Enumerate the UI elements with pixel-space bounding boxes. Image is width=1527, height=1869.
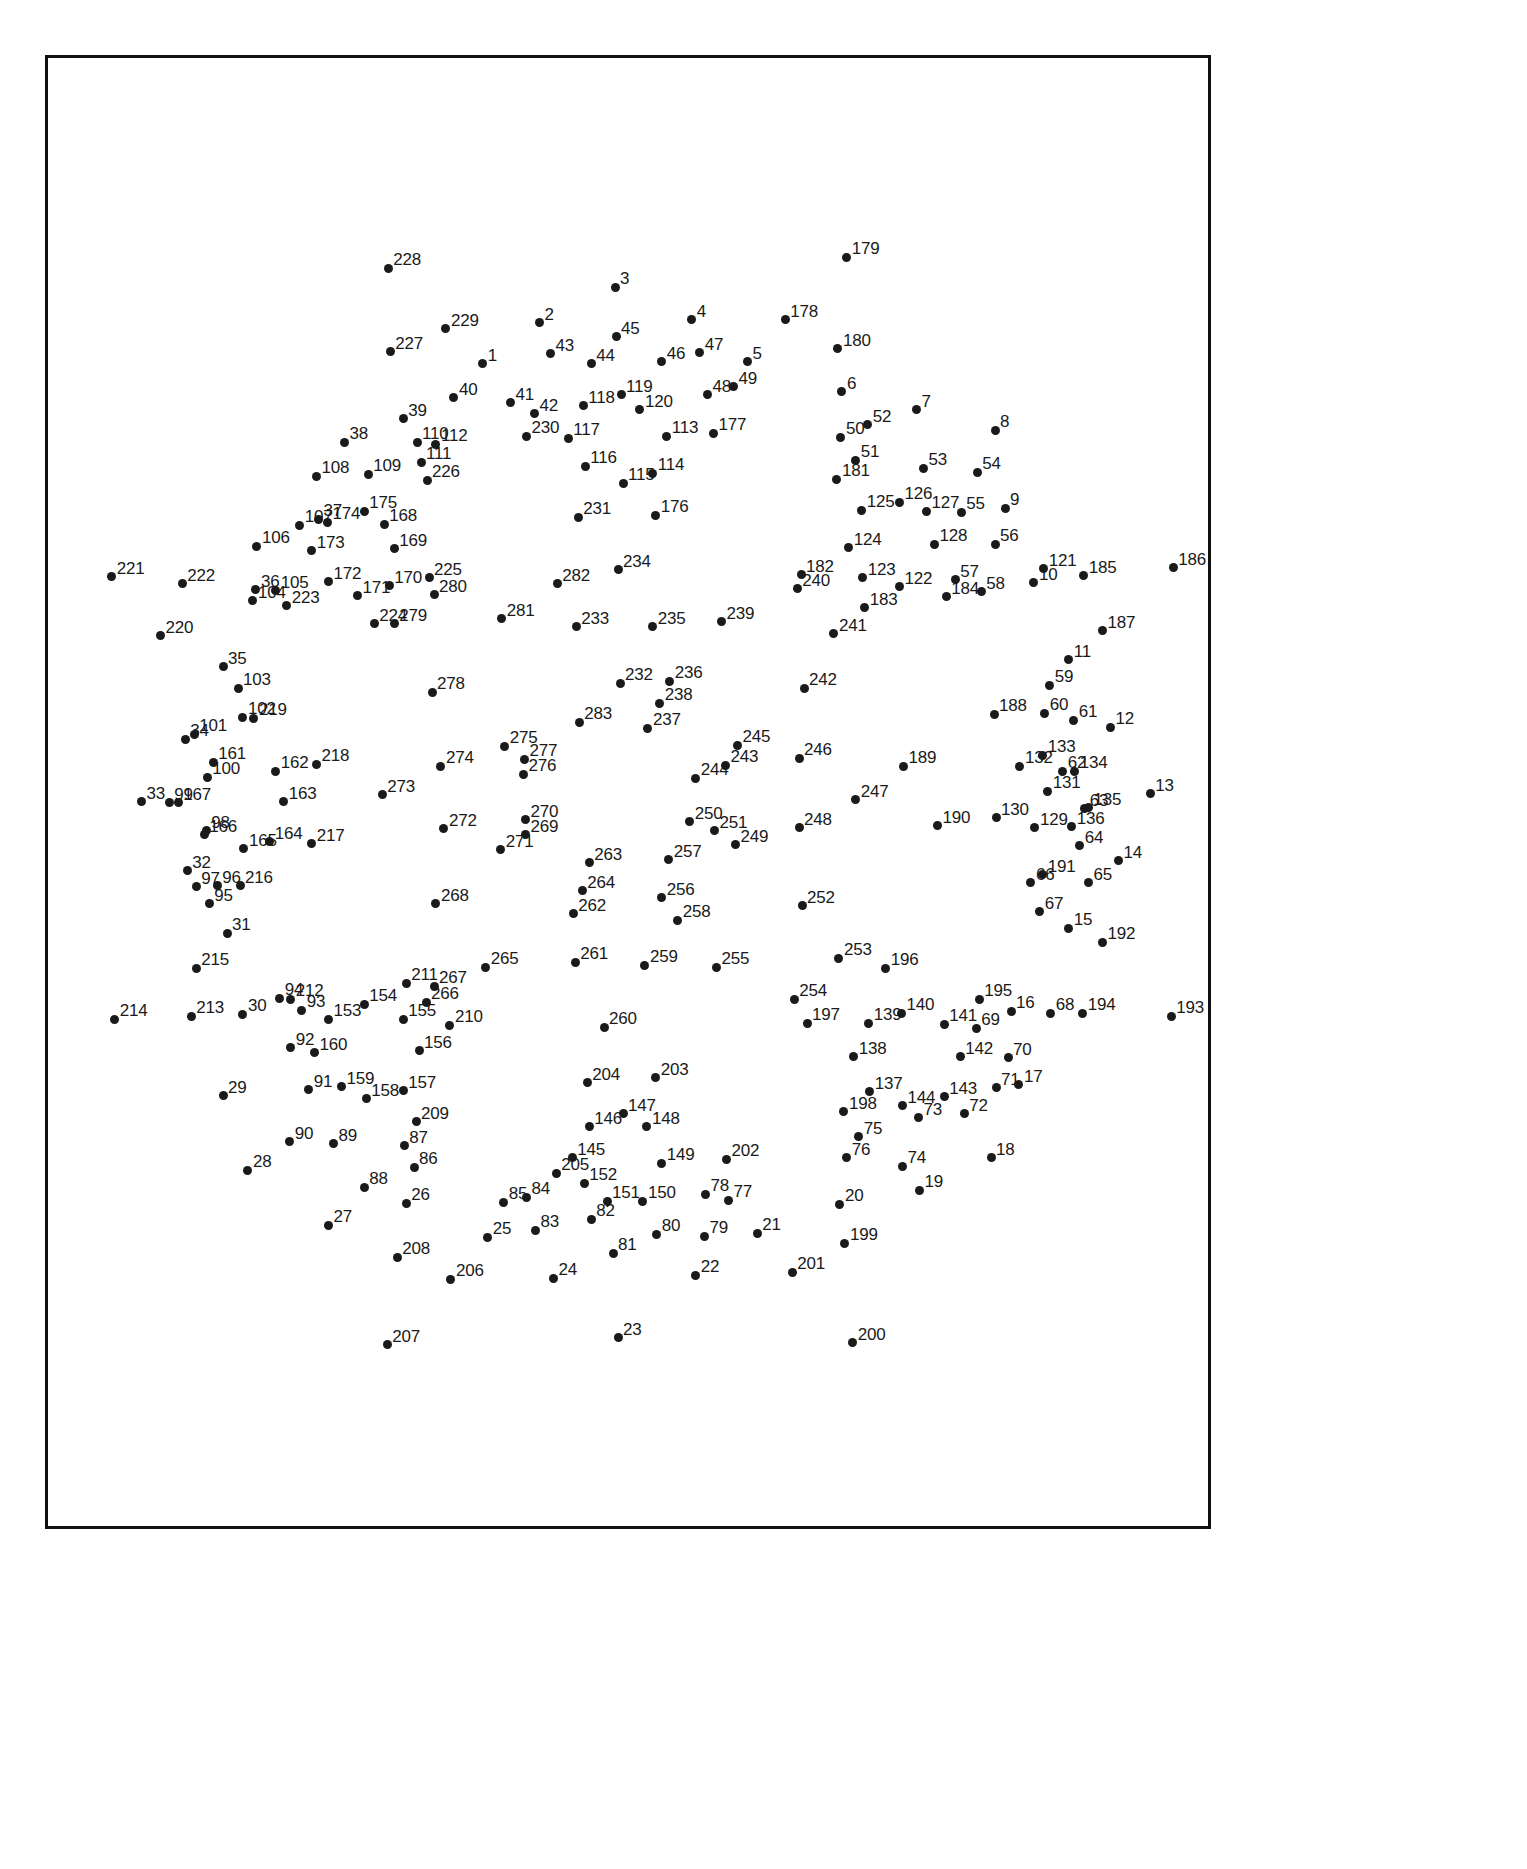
dot-marker: [701, 1190, 710, 1199]
dot-marker: [383, 1340, 392, 1349]
dot-number-label: 272: [449, 812, 477, 829]
dot-marker: [860, 603, 869, 612]
dot-number-label: 270: [531, 803, 559, 820]
dot-marker: [478, 359, 487, 368]
dot-number-label: 214: [120, 1002, 148, 1019]
dot-marker: [603, 1197, 612, 1206]
dot-marker: [564, 434, 573, 443]
dot-marker: [695, 348, 704, 357]
dot-marker: [914, 1113, 923, 1122]
dot-marker: [481, 963, 490, 972]
dot-marker: [790, 995, 799, 1004]
dot-number-label: 87: [409, 1129, 428, 1146]
dot-number-label: 170: [394, 569, 422, 586]
dot-number-label: 199: [850, 1226, 878, 1243]
dot-marker: [975, 995, 984, 1004]
dot-marker: [364, 470, 373, 479]
dot-marker: [402, 1199, 411, 1208]
dot-marker: [662, 432, 671, 441]
dot-number-label: 178: [790, 303, 818, 320]
dot-marker: [378, 790, 387, 799]
dot-number-label: 218: [322, 747, 350, 764]
dot-number-label: 262: [578, 897, 606, 914]
dot-marker: [428, 688, 437, 697]
dot-number-label: 166: [209, 818, 237, 835]
dot-marker: [248, 596, 257, 605]
dot-marker: [483, 1233, 492, 1242]
dot-marker: [881, 964, 890, 973]
dot-number-label: 81: [618, 1236, 637, 1253]
dot-marker: [192, 964, 201, 973]
dot-marker: [992, 813, 1001, 822]
dot-marker: [710, 826, 719, 835]
dot-marker: [614, 1333, 623, 1342]
dot-marker: [238, 1010, 247, 1019]
dot-number-label: 188: [999, 697, 1027, 714]
dot-number-label: 84: [532, 1180, 551, 1197]
dot-number-label: 162: [281, 754, 309, 771]
dot-number-label: 220: [165, 619, 193, 636]
dot-number-label: 137: [875, 1075, 903, 1092]
dot-number-label: 24: [558, 1261, 577, 1278]
dot-marker: [1169, 563, 1178, 572]
dot-marker: [731, 840, 740, 849]
dot-number-label: 57: [960, 563, 979, 580]
dot-marker: [664, 855, 673, 864]
dot-number-label: 205: [561, 1156, 589, 1173]
dot-number-label: 141: [949, 1007, 977, 1024]
dot-number-label: 190: [942, 809, 970, 826]
dot-number-label: 115: [628, 466, 655, 483]
dot-number-label: 282: [562, 567, 590, 584]
dot-marker: [849, 1052, 858, 1061]
dot-number-label: 150: [648, 1184, 676, 1201]
dot-marker: [863, 420, 872, 429]
dot-marker: [553, 579, 562, 588]
dot-marker: [685, 817, 694, 826]
dot-number-label: 177: [719, 416, 747, 433]
dot-marker: [619, 479, 628, 488]
dot-number-label: 33: [147, 785, 166, 802]
dot-number-label: 151: [612, 1184, 640, 1201]
dot-number-label: 111: [426, 445, 451, 462]
dot-number-label: 53: [928, 451, 947, 468]
dot-number-label: 256: [667, 881, 695, 898]
dot-number-label: 50: [846, 420, 865, 437]
dot-marker: [431, 899, 440, 908]
dot-number-label: 226: [432, 463, 460, 480]
dot-number-label: 41: [516, 386, 535, 403]
dot-marker: [353, 591, 362, 600]
dot-marker: [848, 1338, 857, 1347]
dot-number-label: 251: [720, 814, 748, 831]
dot-marker: [399, 1086, 408, 1095]
dot-marker: [857, 506, 866, 515]
dot-marker: [619, 1109, 628, 1118]
dot-marker: [700, 1232, 709, 1241]
dot-number-label: 136: [1077, 810, 1105, 827]
dot-marker: [178, 579, 187, 588]
dot-number-label: 215: [201, 951, 229, 968]
dot-marker: [200, 830, 209, 839]
dot-number-label: 216: [245, 869, 273, 886]
dot-number-label: 223: [292, 589, 320, 606]
dot-number-label: 113: [672, 419, 699, 436]
dot-number-label: 184: [951, 580, 979, 597]
dot-marker: [1029, 578, 1038, 587]
dot-marker: [1001, 504, 1010, 513]
dot-marker: [585, 1122, 594, 1131]
dot-number-label: 238: [665, 686, 693, 703]
dot-number-label: 64: [1085, 829, 1104, 846]
dot-marker: [572, 622, 581, 631]
dot-number-label: 255: [722, 950, 750, 967]
dot-marker: [519, 770, 528, 779]
dot-marker: [835, 1200, 844, 1209]
dot-marker: [310, 1048, 319, 1057]
dot-marker: [286, 1043, 295, 1052]
dot-marker: [181, 735, 190, 744]
dot-number-label: 27: [334, 1208, 353, 1225]
dot-marker: [781, 315, 790, 324]
dot-marker: [530, 409, 539, 418]
dot-number-label: 264: [587, 874, 615, 891]
dot-marker: [898, 1162, 907, 1171]
dot-marker: [991, 426, 1000, 435]
dot-marker: [174, 798, 183, 807]
